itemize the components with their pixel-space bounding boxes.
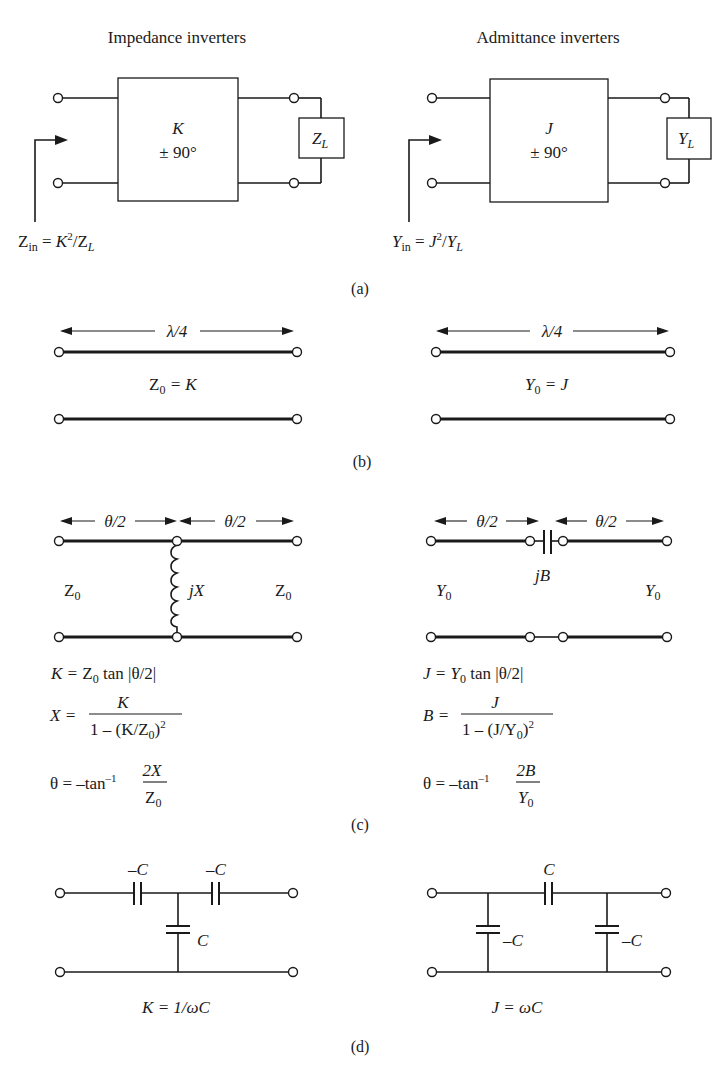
terminal xyxy=(55,537,64,546)
quarter-wave-impedance: λ/4 Z0 = K xyxy=(55,322,302,424)
theta-equation-denominator: Z0 xyxy=(145,788,161,810)
z0-equals-k: Z0 = K xyxy=(149,375,198,397)
b-equation: B = J 1 – (J/Y0)2 xyxy=(423,693,553,742)
theta-equation-lhs: θ = –tan–1 xyxy=(50,772,117,793)
terminal xyxy=(666,348,675,357)
terminal xyxy=(427,537,436,546)
arrow-left-icon xyxy=(555,517,567,525)
shunt-inductor-inverter: θ/2 θ/2 jX Z0 Z0 K = Z0 tan |θ/2| X = K xyxy=(49,512,302,810)
output-terminal-top xyxy=(661,94,670,103)
caption-b: (b) xyxy=(353,453,372,471)
x-equation-denominator: 1 – (K/Z0)2 xyxy=(90,718,166,742)
admittance-inverters-title: Admittance inverters xyxy=(476,28,619,47)
terminal xyxy=(663,537,672,546)
terminal xyxy=(559,537,568,546)
shunt-cap-label: C xyxy=(197,931,209,950)
impedance-admittance-inverter-diagram: Impedance inverters K ± 90° ZL Zin = K2/… xyxy=(0,0,725,1079)
half-length-right: θ/2 xyxy=(224,512,246,531)
section-c: θ/2 θ/2 jX Z0 Z0 K = Z0 tan |θ/2| X = K xyxy=(49,512,672,834)
z0-left: Z0 xyxy=(64,581,80,603)
inverter-k-box xyxy=(118,78,238,201)
shunt-cap-left-label: –C xyxy=(502,931,524,950)
k-omega-equation: K = 1/ωC xyxy=(141,998,211,1017)
half-length-right: θ/2 xyxy=(595,512,617,531)
arrow-right-icon xyxy=(657,327,669,335)
x-equation: X = K 1 – (K/Z0)2 xyxy=(49,693,182,742)
terminal xyxy=(293,348,302,357)
yin-equation: Yin = J2/YL xyxy=(392,230,463,254)
x-equation-lhs: X = xyxy=(49,706,76,725)
terminal xyxy=(427,633,436,642)
terminal xyxy=(293,537,302,546)
terminal xyxy=(173,537,182,546)
terminal xyxy=(56,968,65,977)
terminal xyxy=(173,633,182,642)
arrow-left-icon xyxy=(436,327,448,335)
caption-d: (d) xyxy=(351,1038,370,1056)
theta-equation-numerator: 2X xyxy=(143,761,163,780)
terminal xyxy=(428,889,437,898)
caption-a: (a) xyxy=(351,280,369,298)
capacitor-t-network: –C –C C K = 1/ωC xyxy=(56,860,298,1017)
j-equation: J = Y0 tan |θ/2| xyxy=(423,664,523,686)
terminal xyxy=(56,889,65,898)
length-label: λ/4 xyxy=(166,322,188,341)
b-equation-lhs: B = xyxy=(423,706,449,725)
shunt-cap-right-label: –C xyxy=(621,931,643,950)
theta-equation-lhs: θ = –tan–1 xyxy=(423,772,490,793)
terminal xyxy=(559,633,568,642)
zin-equation: Zin = K2/ZL xyxy=(18,230,95,254)
terminal xyxy=(293,415,302,424)
terminal xyxy=(55,348,64,357)
section-b: λ/4 Z0 = K λ/4 Y0 = J (b) xyxy=(55,322,675,471)
arrow-left-icon xyxy=(60,517,72,525)
k-equation: K = Z0 tan |θ/2| xyxy=(50,664,156,686)
terminal xyxy=(432,415,441,424)
terminal xyxy=(526,633,535,642)
terminal xyxy=(289,889,298,898)
terminal xyxy=(289,968,298,977)
jx-label: jX xyxy=(187,581,205,600)
inverter-k-param: K xyxy=(171,119,185,138)
admittance-inverter-block: Admittance inverters J ± 90° YL Yin = J2… xyxy=(392,28,711,254)
terminal xyxy=(432,348,441,357)
y0-right: Y0 xyxy=(645,581,660,603)
caption-c: (c) xyxy=(351,816,369,834)
theta-equation: θ = –tan–1 2X Z0 xyxy=(50,761,167,810)
inductor-icon xyxy=(171,545,177,633)
arrow-left-icon xyxy=(60,327,72,335)
series-cap-right-label: –C xyxy=(205,860,227,879)
x-equation-numerator: K xyxy=(116,693,130,712)
input-terminal-top xyxy=(54,94,63,103)
length-label: λ/4 xyxy=(541,322,563,341)
arrow-left-icon xyxy=(179,517,191,525)
jb-label: jB xyxy=(533,566,551,585)
inverter-k-phase: ± 90° xyxy=(159,143,196,162)
input-terminal-bottom xyxy=(54,179,63,188)
arrow-right-icon xyxy=(282,517,294,525)
output-terminal-bottom xyxy=(661,179,670,188)
series-capacitor-inverter: θ/2 θ/2 jB Y0 Y0 J = xyxy=(423,512,672,810)
section-d: –C –C C K = 1/ωC C –C –C xyxy=(56,860,671,1056)
arrow-right-icon xyxy=(652,517,664,525)
terminal xyxy=(662,968,671,977)
impedance-inverters-title: Impedance inverters xyxy=(108,28,246,47)
terminal xyxy=(526,537,535,546)
arrow-left-icon xyxy=(434,517,446,525)
terminal xyxy=(428,968,437,977)
b-equation-denominator: 1 – (J/Y0)2 xyxy=(462,718,534,742)
inverter-j-box xyxy=(490,79,608,202)
y0-left: Y0 xyxy=(436,581,451,603)
half-length-left: θ/2 xyxy=(476,512,498,531)
terminal xyxy=(293,633,302,642)
input-terminal-top xyxy=(428,94,437,103)
arrow-right-icon xyxy=(165,517,177,525)
terminal xyxy=(55,415,64,424)
half-length-left: θ/2 xyxy=(104,512,126,531)
b-equation-numerator: J xyxy=(491,693,500,712)
arrow-right-icon xyxy=(282,327,294,335)
output-terminal-bottom xyxy=(290,179,299,188)
inverter-j-phase: ± 90° xyxy=(530,143,567,162)
terminal xyxy=(666,415,675,424)
quarter-wave-admittance: λ/4 Y0 = J xyxy=(432,322,675,424)
